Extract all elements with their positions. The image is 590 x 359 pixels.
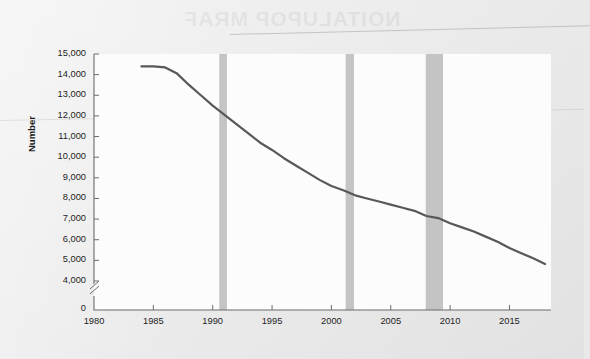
recession-bands-group xyxy=(219,54,443,310)
x-tick-label: 1980 xyxy=(74,316,114,326)
y-tick-label: 13,000 xyxy=(0,89,86,99)
y-tick-label: 11,000 xyxy=(0,131,86,141)
tick-marks-group xyxy=(94,54,509,310)
y-tick-label-zero: 0 xyxy=(0,303,86,313)
y-tick-label: 4,000 xyxy=(0,275,86,285)
data-line-number xyxy=(141,66,545,264)
x-tick-label: 2010 xyxy=(430,316,470,326)
data-series-group xyxy=(141,66,545,264)
y-tick-label: 15,000 xyxy=(0,48,86,58)
y-tick-label: 10,000 xyxy=(0,151,86,161)
x-tick-label: 1985 xyxy=(133,316,173,326)
y-tick-label: 9,000 xyxy=(0,172,86,182)
recession-1990 xyxy=(219,54,227,310)
recession-2008 xyxy=(426,54,443,310)
x-tick-label: 1995 xyxy=(252,316,292,326)
y-tick-label: 7,000 xyxy=(0,213,86,223)
y-tick-label: 5,000 xyxy=(0,254,86,264)
x-tick-label: 1990 xyxy=(193,316,233,326)
x-tick-label: 2015 xyxy=(489,316,529,326)
x-tick-label: 2005 xyxy=(371,316,411,326)
recession-2001 xyxy=(346,54,354,310)
y-tick-label: 6,000 xyxy=(0,234,86,244)
y-tick-label: 14,000 xyxy=(0,69,86,79)
y-tick-label: 12,000 xyxy=(0,110,86,120)
y-tick-label: 8,000 xyxy=(0,192,86,202)
x-tick-label: 2000 xyxy=(311,316,351,326)
